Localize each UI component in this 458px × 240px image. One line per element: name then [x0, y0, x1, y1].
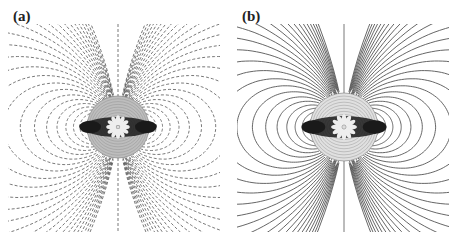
dipole-field-plot-a: [0, 0, 229, 240]
dipole-field-plot-b: [229, 0, 458, 240]
panel-a: (a): [0, 0, 229, 240]
panel-b: (b): [229, 0, 458, 240]
